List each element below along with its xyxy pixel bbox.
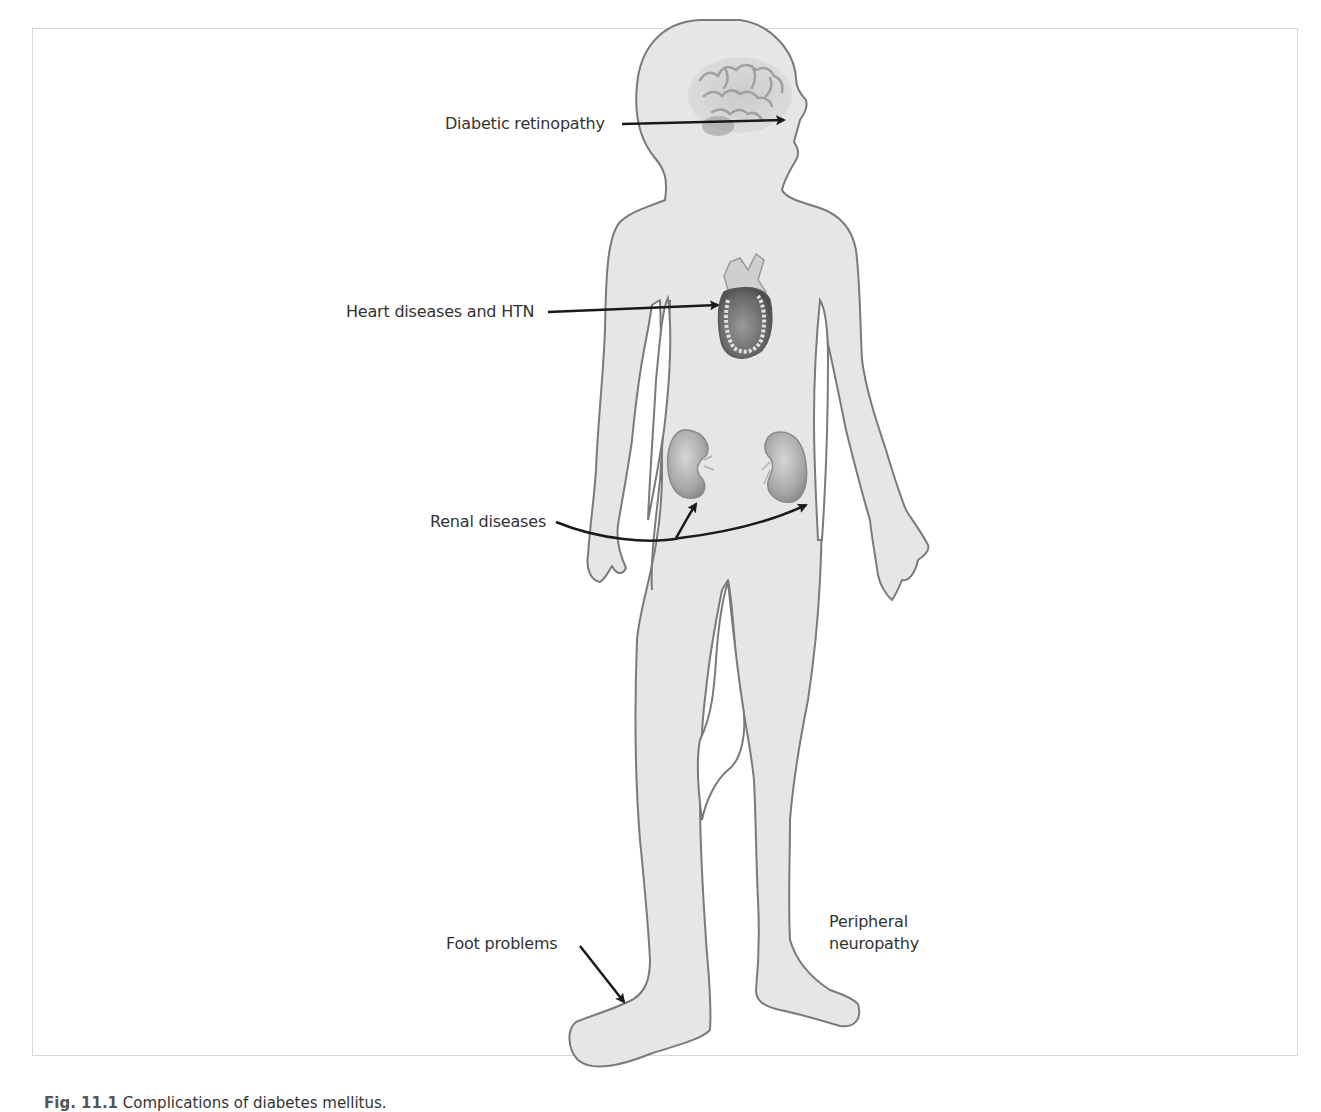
arrow-foot	[580, 946, 624, 1002]
label-peripheral-neuropathy: Peripheral neuropathy	[829, 911, 919, 955]
label-foot-problems: Foot problems	[446, 934, 558, 954]
label-heart-diseases-htn: Heart diseases and HTN	[346, 302, 534, 322]
caption-figure-number: Fig. 11.1	[44, 1094, 118, 1112]
caption-text: Complications of diabetes mellitus.	[123, 1094, 387, 1112]
figure-caption: Fig. 11.1 Complications of diabetes mell…	[44, 1094, 387, 1112]
body-silhouette	[569, 20, 928, 1067]
label-renal-diseases: Renal diseases	[430, 512, 546, 532]
label-diabetic-retinopathy: Diabetic retinopathy	[445, 114, 605, 134]
